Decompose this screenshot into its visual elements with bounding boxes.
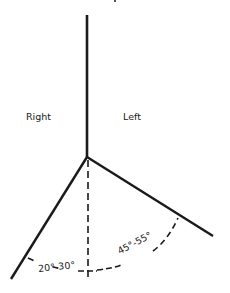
angle-diagram — [0, 0, 230, 293]
angle-arc-right — [97, 265, 121, 270]
right-side-label: Right — [26, 111, 51, 122]
left-side-label: Left — [123, 111, 141, 122]
lower-right-line — [87, 157, 213, 236]
angle-arc-right-upper — [153, 218, 178, 251]
